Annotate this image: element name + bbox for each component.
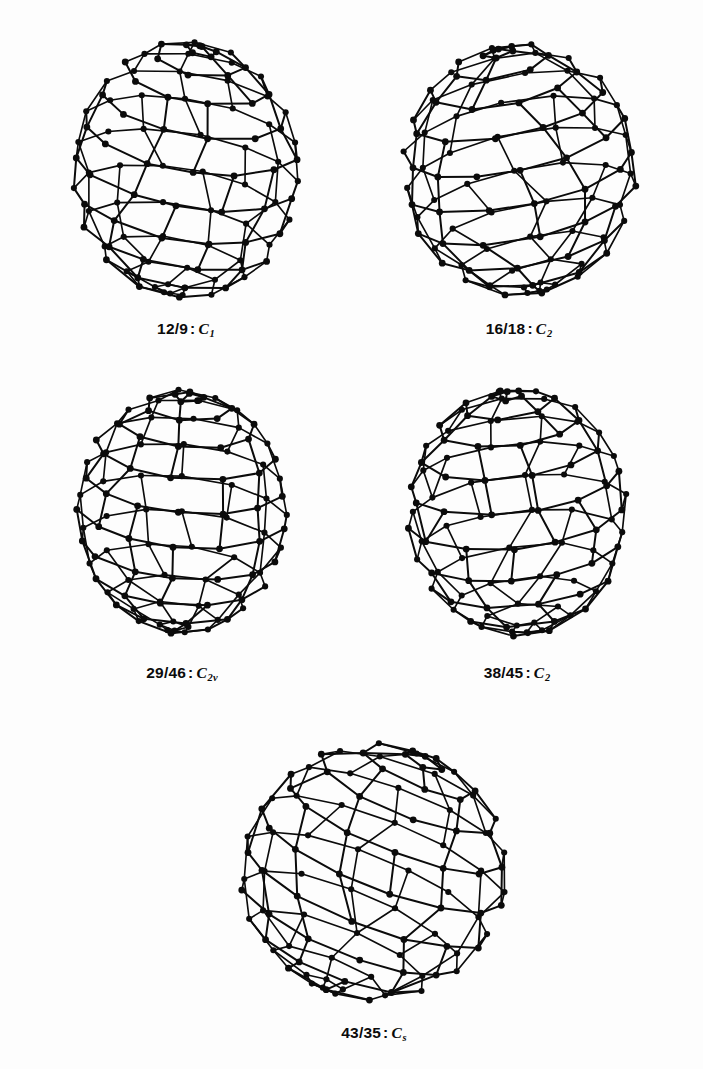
symmetry-subscript-5: s xyxy=(402,1032,407,1043)
isomer-number-5: 43/35 xyxy=(341,1024,381,1041)
cage-svg-structure-4 xyxy=(398,379,636,645)
isomer-number-1: 12/9 xyxy=(157,320,188,337)
structure-caption-2: 16/18:C2 xyxy=(409,320,629,339)
symmetry-subscript-1: 1 xyxy=(209,328,215,339)
caption-separator-4: : xyxy=(523,664,532,681)
figure-sheet: 12/9:C1 16/18:C2 29/46:C2v 38/45:C2 43/3… xyxy=(0,0,703,1069)
fullerene-structure-5 xyxy=(231,735,517,1009)
cage-svg-structure-1 xyxy=(65,33,307,307)
symmetry-group-3: C xyxy=(195,664,207,681)
structure-caption-1: 12/9:C1 xyxy=(76,320,296,339)
structure-caption-5: 43/35:Cs xyxy=(264,1024,484,1043)
cage-svg-structure-3 xyxy=(68,381,296,643)
cage-svg-structure-5 xyxy=(231,735,517,1009)
symmetry-group-1: C xyxy=(197,320,209,337)
symmetry-subscript-2: 2 xyxy=(546,328,552,339)
symmetry-group-5: C xyxy=(390,1024,402,1041)
isomer-number-2: 16/18 xyxy=(486,320,526,337)
symmetry-subscript-3: 2v xyxy=(207,672,218,683)
symmetry-group-2: C xyxy=(535,320,547,337)
fullerene-structure-2 xyxy=(394,35,644,305)
fullerene-structure-3 xyxy=(68,381,296,643)
caption-separator-3: : xyxy=(186,664,195,681)
symmetry-group-4: C xyxy=(533,664,545,681)
cage-svg-structure-2 xyxy=(394,35,644,305)
caption-separator-2: : xyxy=(525,320,534,337)
symmetry-subscript-4: 2 xyxy=(544,672,550,683)
structure-caption-3: 29/46:C2v xyxy=(72,664,292,683)
caption-separator-5: : xyxy=(381,1024,390,1041)
isomer-number-3: 29/46 xyxy=(146,664,186,681)
structure-caption-4: 38/45:C2 xyxy=(407,664,627,683)
fullerene-structure-4 xyxy=(398,379,636,645)
isomer-number-4: 38/45 xyxy=(484,664,524,681)
fullerene-structure-1 xyxy=(65,33,307,307)
